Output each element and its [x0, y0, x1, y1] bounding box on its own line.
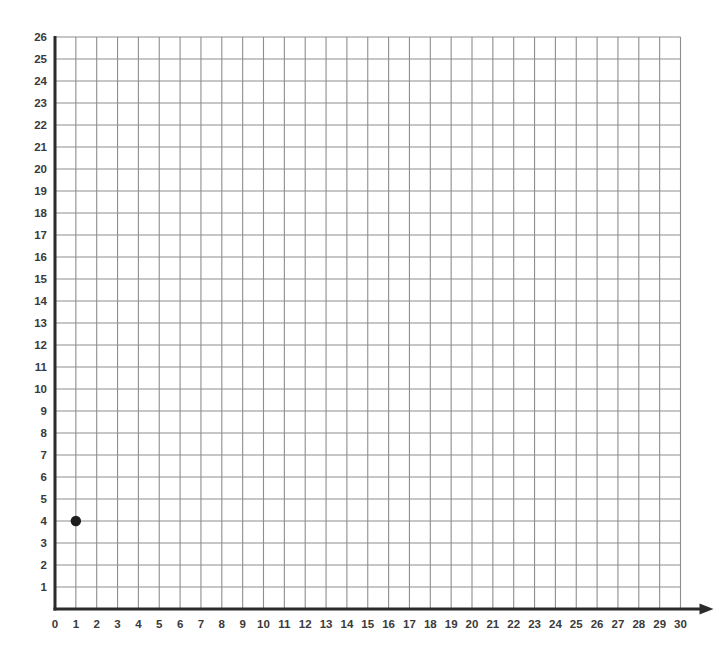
x-tick-label: 19: [445, 618, 458, 630]
x-tick-label: 9: [239, 618, 245, 630]
x-tick-label: 20: [466, 618, 479, 630]
x-tick-label: 5: [156, 618, 163, 630]
x-tick-label: 26: [591, 618, 604, 630]
x-tick-label: 22: [507, 618, 520, 630]
x-tick-label: 6: [177, 618, 183, 630]
y-tick-label: 25: [34, 53, 47, 65]
y-tick-label: 10: [34, 383, 47, 395]
y-tick-label: 19: [34, 185, 47, 197]
y-tick-label: 17: [34, 229, 47, 241]
graph-page: 0123456789101112131415161718192021222324…: [0, 0, 719, 665]
x-tick-label: 11: [278, 618, 291, 630]
x-tick-label: 21: [486, 618, 499, 630]
x-tick-label: 4: [135, 618, 142, 630]
y-tick-label: 15: [34, 273, 47, 285]
y-tick-label: 1: [41, 581, 48, 593]
x-tick-label: 29: [653, 618, 666, 630]
x-tick-label: 13: [320, 618, 333, 630]
y-tick-label: 26: [34, 31, 47, 43]
y-tick-label: 13: [34, 317, 47, 329]
y-tick-label: 14: [34, 295, 47, 307]
x-tick-label: 1: [73, 618, 80, 630]
y-tick-label: 20: [34, 163, 47, 175]
y-tick-label: 8: [41, 427, 48, 439]
y-tick-label: 11: [35, 361, 48, 373]
y-tick-label: 16: [34, 251, 47, 263]
x-tick-label: 12: [299, 618, 312, 630]
y-tick-label: 21: [34, 141, 47, 153]
y-tick-label: 7: [41, 449, 47, 461]
x-tick-label: 8: [219, 618, 226, 630]
y-tick-label: 22: [34, 119, 47, 131]
x-tick-label: 28: [632, 618, 645, 630]
data-point-marker[interactable]: [71, 516, 81, 526]
coordinate-grid-plot[interactable]: 0123456789101112131415161718192021222324…: [0, 0, 719, 665]
x-tick-label: 27: [612, 618, 625, 630]
x-tick-label: 2: [93, 618, 99, 630]
x-tick-label: 18: [424, 618, 437, 630]
data-point-markers[interactable]: [71, 516, 81, 526]
x-tick-label: 16: [382, 618, 395, 630]
x-tick-label: 23: [528, 618, 541, 630]
y-tick-label: 24: [34, 75, 47, 87]
x-tick-label: 15: [361, 618, 374, 630]
y-tick-label: 9: [41, 405, 47, 417]
x-tick-label: 0: [52, 618, 58, 630]
x-tick-label: 17: [403, 618, 416, 630]
x-tick-label: 24: [549, 618, 562, 630]
x-tick-label: 25: [570, 618, 583, 630]
x-tick-label: 3: [114, 618, 120, 630]
y-tick-label: 2: [41, 559, 47, 571]
y-tick-label: 18: [34, 207, 47, 219]
x-tick-label: 10: [257, 618, 270, 630]
y-tick-label: 12: [34, 339, 47, 351]
x-tick-label: 30: [674, 618, 687, 630]
y-tick-label: 4: [41, 515, 48, 527]
x-tick-label: 7: [198, 618, 204, 630]
y-tick-label: 6: [41, 471, 47, 483]
y-tick-label: 5: [41, 493, 48, 505]
y-tick-label: 23: [34, 97, 47, 109]
x-tick-label: 14: [341, 618, 354, 630]
y-tick-label: 3: [41, 537, 47, 549]
